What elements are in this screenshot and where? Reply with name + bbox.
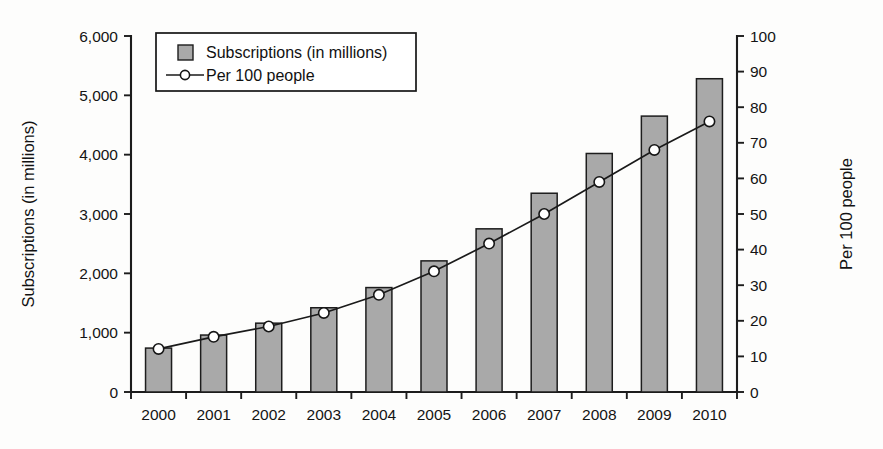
- x-axis-labels: 2000200120022003200420052006200720082009…: [141, 406, 727, 423]
- bar-2006: [476, 229, 502, 392]
- line-marker-2009: [649, 145, 659, 155]
- x-tick-label-2009: 2009: [637, 406, 671, 423]
- x-tick-label-2010: 2010: [692, 406, 727, 423]
- line-marker-2003: [319, 308, 329, 318]
- chart-figure: 01,0002,0003,0004,0005,0006,000 01020304…: [0, 0, 883, 449]
- right-tick-label: 50: [750, 206, 768, 223]
- right-tick-label: 100: [750, 28, 776, 45]
- left-tick-label: 6,000: [79, 28, 118, 45]
- right-tick-label: 20: [750, 312, 768, 329]
- x-tick-label-2001: 2001: [196, 406, 230, 423]
- x-tick-label-2002: 2002: [251, 406, 285, 423]
- left-tick-label: 5,000: [79, 87, 118, 104]
- x-tick-label-2003: 2003: [307, 406, 341, 423]
- left-tick-label: 4,000: [79, 146, 118, 163]
- line-marker-2008: [594, 177, 604, 187]
- legend-swatch-subscriptions: [178, 45, 193, 60]
- legend-label-subscriptions: Subscriptions (in millions): [206, 44, 387, 61]
- x-tick-label-2006: 2006: [472, 406, 506, 423]
- left-tick-label: 3,000: [79, 206, 118, 223]
- legend-marker-per-100-people: [180, 70, 189, 79]
- line-marker-2000: [153, 344, 163, 354]
- left-axis-title: Subscriptions (in millions): [19, 120, 37, 307]
- x-tick-label-2004: 2004: [362, 406, 397, 423]
- right-tick-label: 90: [750, 63, 768, 80]
- line-marker-2007: [539, 209, 549, 219]
- left-tick-label: 1,000: [79, 324, 118, 341]
- right-tick-label: 60: [750, 170, 768, 187]
- right-tick-label: 10: [750, 348, 768, 365]
- right-tick-label: 40: [750, 241, 768, 258]
- x-tick-label-2008: 2008: [582, 406, 616, 423]
- x-tick-label-2005: 2005: [417, 406, 451, 423]
- bar-series: [146, 79, 723, 392]
- right-tick-label: 0: [750, 384, 759, 401]
- left-tick-label: 0: [109, 384, 118, 401]
- legend-label-per-100-people: Per 100 people: [206, 67, 315, 84]
- left-tick-label: 2,000: [79, 265, 118, 282]
- line-marker-2001: [208, 332, 218, 342]
- chart-legend: Subscriptions (in millions) Per 100 peop…: [156, 33, 416, 91]
- bar-2001: [201, 335, 227, 392]
- dual-axis-combo-chart: 01,0002,0003,0004,0005,0006,000 01020304…: [0, 0, 883, 449]
- line-marker-2005: [429, 266, 439, 276]
- right-tick-label: 30: [750, 277, 768, 294]
- bar-2003: [311, 308, 337, 392]
- line-marker-2004: [374, 290, 384, 300]
- right-axis-ticks: 0102030405060708090100: [737, 28, 776, 401]
- x-tick-label-2007: 2007: [527, 406, 561, 423]
- line-marker-2006: [484, 238, 494, 248]
- line-marker-2010: [704, 116, 714, 126]
- x-tick-label-2000: 2000: [141, 406, 176, 423]
- bar-2007: [531, 193, 557, 392]
- bar-2005: [421, 261, 447, 392]
- right-tick-label: 80: [750, 99, 768, 116]
- bar-2004: [366, 288, 392, 392]
- bar-2008: [586, 153, 612, 392]
- bar-2002: [256, 323, 282, 392]
- right-axis-title: Per 100 people: [837, 158, 855, 270]
- bar-2009: [641, 116, 667, 392]
- line-marker-2002: [264, 321, 274, 331]
- left-axis-ticks: 01,0002,0003,0004,0005,0006,000: [79, 28, 131, 401]
- right-tick-label: 70: [750, 134, 768, 151]
